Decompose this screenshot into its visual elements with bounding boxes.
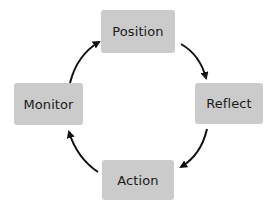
- node-label-action: Action: [117, 173, 158, 188]
- arrow-monitor-to-position: [70, 42, 99, 83]
- node-action: Action: [102, 160, 174, 200]
- arrow-action-to-monitor: [69, 132, 98, 172]
- node-label-reflect: Reflect: [206, 96, 252, 111]
- node-label-position: Position: [112, 24, 163, 39]
- node-reflect: Reflect: [195, 83, 263, 124]
- arrow-position-to-reflect: [181, 44, 206, 78]
- node-label-monitor: Monitor: [23, 97, 73, 112]
- node-position: Position: [101, 10, 175, 53]
- node-monitor: Monitor: [14, 83, 83, 125]
- arrow-reflect-to-action: [181, 129, 207, 167]
